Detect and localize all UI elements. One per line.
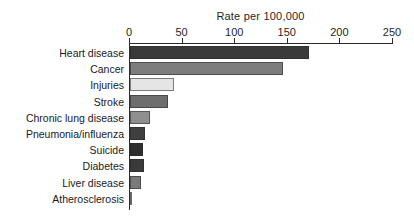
bar-category-label: Injuries [0,79,124,91]
bar [130,159,144,172]
x-tick-label: 150 [278,26,296,38]
x-tick-label: 100 [225,26,243,38]
bar-category-label: Chronic lung disease [0,112,124,124]
bar [130,78,174,91]
chart-title: Rate per 100,000 [129,10,392,22]
bar [130,176,141,189]
bar-row: Injuries [0,77,414,93]
bar-category-label: Atherosclerosis [0,193,124,205]
bar-category-label: Diabetes [0,160,124,172]
bar-wrapper [130,111,150,124]
bar-category-label: Pneumonia/influenza [0,128,124,140]
x-tick-label: 0 [126,26,132,38]
x-tick-label: 50 [175,26,187,38]
bar-row: Chronic lung disease [0,110,414,126]
bar-row: Cancer [0,61,414,77]
bar [130,62,283,75]
bar-row: Heart disease [0,45,414,61]
bar-category-label: Stroke [0,96,124,108]
bar-row: Atherosclerosis [0,191,414,207]
bar-wrapper [130,176,141,189]
bar-wrapper [130,62,283,75]
bar [130,143,143,156]
bar-row: Liver disease [0,175,414,191]
x-tick-label: 200 [330,26,348,38]
bar-category-label: Suicide [0,144,124,156]
plot-area: Heart diseaseCancerInjuriesStrokeChronic… [0,44,414,220]
bar-row: Stroke [0,94,414,110]
bar-wrapper [130,192,132,205]
bar-wrapper [130,143,143,156]
bar-wrapper [130,159,144,172]
bar-wrapper [130,127,145,140]
bar [130,127,145,140]
bar [130,46,309,59]
x-tick-label: 250 [383,26,401,38]
bar-row: Diabetes [0,158,414,174]
bar-chart: Rate per 100,000 050100150200250 Heart d… [0,0,414,224]
bar [130,95,168,108]
bar-row: Suicide [0,142,414,158]
bar-wrapper [130,78,174,91]
bar-row: Pneumonia/influenza [0,126,414,142]
bar-category-label: Cancer [0,63,124,75]
bar-category-label: Heart disease [0,47,124,59]
bar [130,111,150,124]
bar-wrapper [130,95,168,108]
bar [130,192,132,205]
bar-category-label: Liver disease [0,177,124,189]
bar-wrapper [130,46,309,59]
